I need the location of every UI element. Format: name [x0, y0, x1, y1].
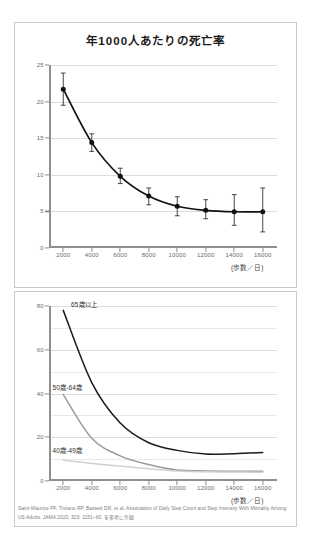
data-point-marker [61, 87, 66, 92]
y-axis-tick-label: 15 [37, 135, 44, 141]
data-point-marker [146, 194, 151, 199]
x-axis-tick-label: 6000 [113, 252, 127, 258]
x-axis-tick-label: 10000 [168, 485, 186, 491]
series-line [63, 89, 263, 212]
y-axis-tick-label: 0 [40, 478, 44, 484]
chart-plot-area-bottom: 0204060802000400060008000100001200014000… [49, 306, 277, 481]
data-point-marker [118, 174, 123, 179]
series-line [63, 395, 263, 472]
y-axis-tick-label: 60 [37, 347, 44, 353]
x-axis-title: (歩数／日) [231, 495, 263, 505]
x-axis-tick-label: 16000 [254, 252, 272, 258]
series-line [63, 310, 263, 454]
x-axis-tick-label: 16000 [254, 485, 272, 491]
x-axis-tick-label: 2000 [56, 485, 70, 491]
x-axis-tick-label: 14000 [225, 485, 243, 491]
y-axis-tick-label: 5 [40, 208, 44, 214]
x-axis-tick-label: 4000 [85, 485, 99, 491]
y-axis-tick-label: 80 [37, 303, 44, 309]
y-axis-tick-label: 0 [40, 245, 44, 251]
x-axis-tick-label: 2000 [56, 252, 70, 258]
x-axis-line [49, 479, 277, 481]
y-axis-tick-label: 20 [37, 434, 44, 440]
data-point-marker [232, 209, 237, 214]
series-label-1: 65歳以上 [71, 300, 97, 309]
data-point-marker [203, 208, 208, 213]
page-title: 年1000人あたりの死亡率 [15, 32, 296, 48]
x-axis-tick-label: 14000 [225, 252, 243, 258]
chart-plot-area-top: 0510152025200040006000800010000120001400… [49, 65, 277, 248]
y-axis-tick-label: 20 [37, 99, 44, 105]
x-axis-tick-label: 8000 [142, 485, 156, 491]
x-axis-title: (歩数／日) [231, 262, 263, 272]
y-axis-tick-label: 25 [37, 62, 44, 68]
x-axis-tick-label: 12000 [197, 485, 215, 491]
mortality-rate-chart-panel: 年1000人あたりの死亡率 05101520252000400060008000… [14, 22, 297, 288]
x-axis-tick-label: 6000 [113, 485, 127, 491]
y-axis-tick-label: 10 [37, 172, 44, 178]
series-layer [49, 306, 277, 481]
x-axis-line [49, 246, 277, 248]
y-axis-tick-label: 40 [37, 391, 44, 397]
x-axis-tick-label: 10000 [168, 252, 186, 258]
x-axis-tick-label: 12000 [197, 252, 215, 258]
source-footnote: Saint-Maurice PF, Troiano RP, Bassett DR… [18, 505, 290, 522]
data-point-marker [89, 140, 94, 145]
data-point-marker [175, 204, 180, 209]
series-label-3: 40歳-49歳 [53, 446, 83, 455]
mortality-by-age-chart-panel: 0204060802000400060008000100001200014000… [14, 291, 297, 527]
x-axis-tick-label: 8000 [142, 252, 156, 258]
series-label-2: 50歳-64歳 [53, 383, 83, 392]
data-point-marker [260, 209, 265, 214]
series-layer [49, 65, 277, 248]
x-axis-tick-label: 4000 [85, 252, 99, 258]
